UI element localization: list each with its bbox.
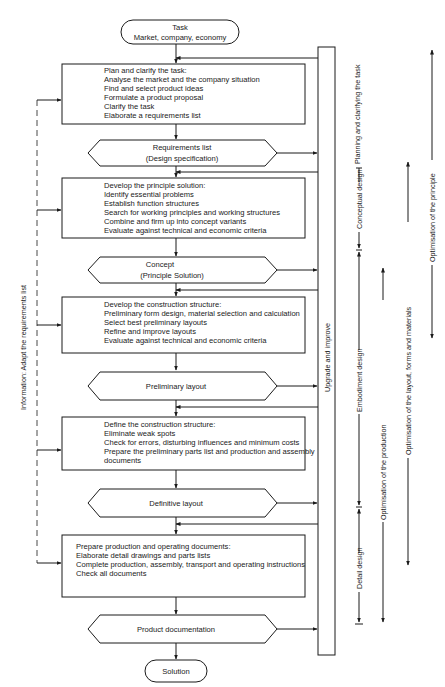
step-plan-clarify: Plan and clarify the task: Analyse the m… <box>62 64 305 124</box>
step-text: Check for errors, disturbing influences … <box>104 438 300 447</box>
step-text: Develop the construction structure: <box>104 300 221 309</box>
start-subtitle: Market, company, economy <box>134 33 227 42</box>
output-text: Preliminary layout <box>146 382 207 391</box>
end-text: Solution <box>162 667 189 676</box>
step-production-documents: Prepare production and operating documen… <box>62 535 305 597</box>
phase-column: Planning and clarifying the task Concept… <box>353 64 364 624</box>
phase-conceptual-label: Conceptual design <box>355 169 364 229</box>
step-text: Identify essential problems <box>104 190 194 199</box>
output-definitive-layout: Definitive layout <box>88 489 277 517</box>
output-text: Definitive layout <box>149 499 203 508</box>
output-product-documentation: Product documentation <box>88 615 277 643</box>
optimisation-layout: Optimisation of the layout, forms and ma… <box>404 162 413 565</box>
optimisation-production-label: Optimisation of the production <box>379 425 388 521</box>
step-text: documents <box>104 456 141 465</box>
information-feedback-loop: Information: Adapt the requirements list <box>19 100 61 563</box>
step-text: Evaluate against technical and economic … <box>104 336 267 345</box>
end-terminator: Solution <box>145 660 207 682</box>
output-text: (Design specification) <box>146 154 219 163</box>
step-text: Elaborate detail drawings and parts list… <box>76 551 210 560</box>
step-text: Elaborate a requirements list <box>104 111 202 120</box>
phase-detail-label: Detail design <box>355 547 364 589</box>
optimisation-principle-label: Optimisation of the principle <box>428 173 437 262</box>
output-text: Concept <box>146 260 175 269</box>
step-text: Find and select product ideas <box>104 84 203 93</box>
step-define-construction: Define the construction structure: Elimi… <box>62 417 315 470</box>
output-concept: Concept (Principle Solution) <box>88 257 277 283</box>
start-terminator: Task Market, company, economy <box>121 20 239 44</box>
step-construction-structure: Develop the construction structure: Prel… <box>62 297 305 353</box>
start-title: Task <box>172 23 188 32</box>
step-text: Preliminary form design, material select… <box>104 309 300 318</box>
flowchart-canvas: Task Market, company, economy Plan and c… <box>0 0 445 687</box>
output-text: Requirements list <box>153 143 213 152</box>
step-text: Prepare the preliminary parts list and p… <box>104 447 315 456</box>
information-label: Information: Adapt the requirements list <box>19 285 28 410</box>
step-text: Search for working principles and workin… <box>104 208 280 217</box>
optimisation-layout-label: Optimisation of the layout, forms and ma… <box>404 306 413 455</box>
output-preliminary-layout: Preliminary layout <box>88 372 277 400</box>
output-text: Product documentation <box>137 625 215 634</box>
step-text: Define the construction structure: <box>104 420 215 429</box>
step-text: Refine and improve layouts <box>104 327 196 336</box>
output-text: (Principle Solution) <box>140 271 204 280</box>
phase-planning-label: Planning and clarifying the task <box>353 64 362 164</box>
step-text: Evaluate against technical and economic … <box>104 226 267 235</box>
step-text: Clarify the task <box>104 102 154 111</box>
phase-embodiment-label: Embodiment design <box>355 348 364 412</box>
step-text: Develop the principle solution: <box>104 181 205 190</box>
step-text: Select best preliminary layouts <box>104 318 207 327</box>
step-principle-solution: Develop the principle solution: Identify… <box>62 178 305 238</box>
step-text: Plan and clarify the task: <box>104 66 187 75</box>
output-requirements-list: Requirements list (Design specification) <box>88 140 277 166</box>
step-text: Analyse the market and the company situa… <box>104 75 260 84</box>
upgrade-improve-column: Upgrade and improve <box>318 47 335 655</box>
step-text: Establish function structures <box>104 199 199 208</box>
step-text: Prepare production and operating documen… <box>76 542 231 551</box>
step-text: Formulate a product proposal <box>104 93 204 102</box>
optimisation-production: Optimisation of the production <box>379 268 388 622</box>
step-text: Combine and firm up into concept variant… <box>104 217 246 226</box>
step-text: Complete production, assembly, transport… <box>76 560 305 569</box>
upgrade-improve-label: Upgrade and improve <box>323 323 332 392</box>
optimisation-principle: Optimisation of the principle <box>428 50 437 338</box>
step-text: Eliminate weak spots <box>104 429 176 438</box>
step-text: Check all documents <box>76 569 147 578</box>
